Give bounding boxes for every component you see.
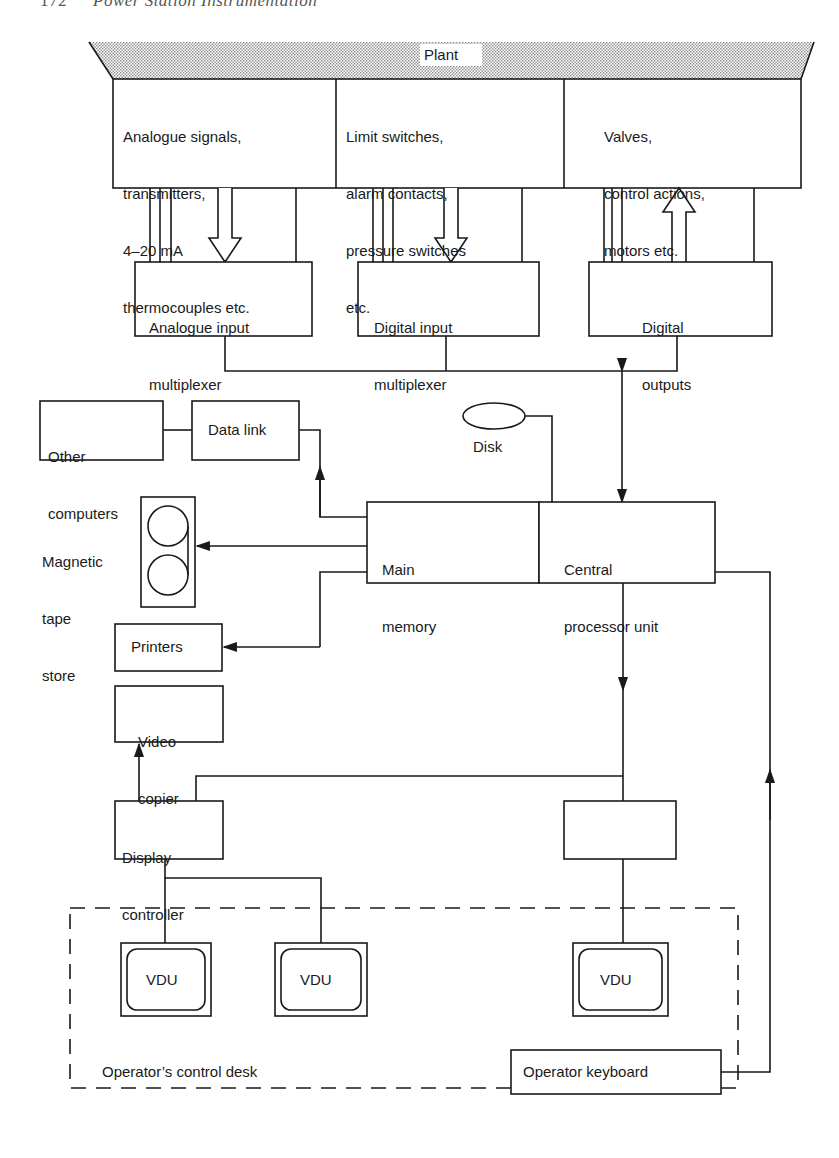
- text-line: Digital: [642, 318, 691, 337]
- text-line: outputs: [642, 375, 691, 394]
- text-line: control actions,: [604, 184, 705, 203]
- text-line: motors etc.: [604, 241, 705, 260]
- text-line: Digital input: [374, 318, 452, 337]
- text-line: Analogue input: [149, 318, 249, 337]
- analogue-input-multiplexer: Analogue input multiplexer: [149, 280, 249, 413]
- text-line: Central: [564, 560, 658, 579]
- text-line: Analogue signals,: [123, 127, 250, 146]
- text-line: Main: [382, 560, 436, 579]
- text-line: 4–20 mA: [123, 241, 250, 260]
- text-line: Other: [48, 447, 118, 466]
- printers: Printers: [131, 637, 183, 656]
- text-line: Magnetic: [42, 552, 103, 571]
- text-line: transmitters,: [123, 184, 250, 203]
- text-line: copier: [138, 789, 179, 808]
- control-desk-label: Operator’s control desk: [102, 1062, 257, 1081]
- vdu-2: VDU: [300, 970, 332, 989]
- text-line: alarm contacts,: [346, 184, 466, 203]
- operator-keyboard: Operator keyboard: [523, 1062, 648, 1081]
- digital-outputs: Digital outputs: [642, 280, 691, 413]
- video-copier: Video copier: [138, 694, 179, 827]
- text-line: controller: [122, 905, 184, 924]
- text-line: multiplexer: [374, 375, 452, 394]
- plant-section-valves: Valves, control actions, motors etc.: [604, 89, 705, 279]
- text-line: pressure switches: [346, 241, 466, 260]
- text-line: Limit switches,: [346, 127, 466, 146]
- text-line: store: [42, 666, 103, 685]
- magnetic-tape-store-label: Magnetic tape store: [42, 514, 103, 704]
- disk-label: Disk: [473, 437, 502, 456]
- text-line: Display: [122, 848, 184, 867]
- text-line: Video: [138, 732, 179, 751]
- text-line: Valves,: [604, 127, 705, 146]
- text-line: multiplexer: [149, 375, 249, 394]
- central-processor-unit: Central processor unit: [564, 522, 658, 655]
- vdu-3: VDU: [600, 970, 632, 989]
- data-link: Data link: [208, 420, 266, 439]
- vdu-1: VDU: [146, 970, 178, 989]
- text-line: memory: [382, 617, 436, 636]
- digital-input-multiplexer: Digital input multiplexer: [374, 280, 452, 413]
- display-controller: Display controller: [122, 810, 184, 943]
- plant-title: Plant: [424, 45, 458, 64]
- text-line: processor unit: [564, 617, 658, 636]
- main-memory: Main memory: [382, 522, 436, 655]
- text-line: tape: [42, 609, 103, 628]
